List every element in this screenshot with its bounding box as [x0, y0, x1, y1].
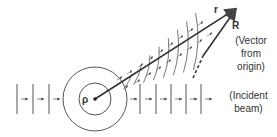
r-vector — [95, 9, 236, 99]
r-label: r — [214, 4, 218, 15]
incident-beam-label-line1: (Incident — [220, 90, 277, 101]
R-description-line3: origin) — [226, 61, 276, 72]
R-description-line1: (Vector — [226, 35, 276, 46]
origin-dot — [93, 97, 97, 101]
scattered-wavefronts — [124, 13, 198, 88]
R-description-line2: from — [226, 48, 276, 59]
incident-beam-label-line2: beam) — [220, 103, 277, 114]
rho-label: ρ — [82, 94, 88, 105]
R-label: R — [232, 20, 239, 31]
